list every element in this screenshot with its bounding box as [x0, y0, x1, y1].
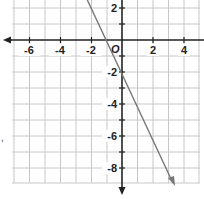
arrow-down-icon — [119, 187, 126, 195]
stray-mark: , — [1, 132, 4, 143]
x-axis — [3, 37, 204, 44]
plotted-line — [85, 0, 175, 186]
y-axis — [119, 0, 126, 195]
x-tick-label: -2 — [86, 44, 96, 56]
y-tick-label: 2 — [111, 2, 117, 14]
arrow-head-icon — [168, 176, 175, 186]
x-tick-label: -4 — [55, 44, 66, 56]
x-tick-label: 2 — [150, 44, 156, 56]
x-tick-label: -6 — [24, 44, 34, 56]
y-tick-label: -6 — [107, 130, 117, 142]
x-tick-label: 4 — [181, 44, 188, 56]
coordinate-plane: -6 -4 -2 2 4 2 -2 -4 -6 -8 O — [0, 0, 204, 199]
y-tick-label: -8 — [107, 162, 117, 174]
y-tick-label: -2 — [107, 66, 117, 78]
grid — [12, 0, 200, 183]
y-tick-label: -4 — [107, 98, 118, 110]
arrow-left-icon — [3, 37, 11, 44]
